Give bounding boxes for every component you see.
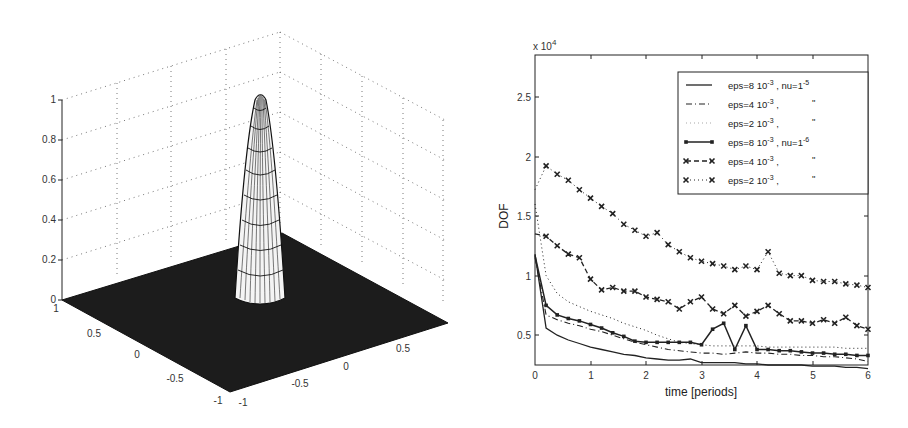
z-tick-label: 0.8 xyxy=(42,134,56,145)
x-tick-label: 0 xyxy=(343,361,349,372)
y-tick-label: 1.5 xyxy=(517,211,531,222)
y-tick-label: 2.5 xyxy=(517,92,531,103)
svg-text:eps=8 10-3 , nu=1-5: eps=8 10-3 , nu=1-5 xyxy=(728,79,809,91)
x-tick-label: -1 xyxy=(239,397,248,408)
x-tick-label: 6 xyxy=(865,370,871,381)
x-tick-label: 2 xyxy=(643,370,649,381)
series-line-4 xyxy=(535,255,870,357)
y-tick-label: 0 xyxy=(134,349,140,360)
series-layer xyxy=(535,163,871,368)
y-axis-label: DOF xyxy=(497,203,511,228)
z-tick-label: 1 xyxy=(50,94,56,105)
svg-text:eps=4 10-3 ,: eps=4 10-3 , xyxy=(728,155,779,167)
peak-surface xyxy=(235,95,285,304)
y-tick-label: 0.5 xyxy=(87,328,101,339)
x-tick-label: 4 xyxy=(754,370,760,381)
x-tick-label: -0.5 xyxy=(291,378,309,389)
y-tick-label: 1 xyxy=(525,271,531,282)
svg-text:eps=4 10-3 ,: eps=4 10-3 , xyxy=(728,98,779,110)
y-tick-label: 0.5 xyxy=(517,330,531,341)
legend-entry: eps=2 10-3 ," xyxy=(684,173,816,186)
y-tick-label: -0.5 xyxy=(166,373,184,384)
svg-text:": " xyxy=(812,154,815,165)
y-multiplier: x 104 xyxy=(533,38,557,52)
series-line-3 xyxy=(535,204,868,348)
legend-entry: eps=4 10-3 ," xyxy=(684,154,816,167)
legend-entry: eps=2 10-3 ," xyxy=(686,116,815,129)
svg-text:": " xyxy=(812,97,815,108)
plot-area xyxy=(535,55,868,365)
y-tick-label: 2 xyxy=(525,152,531,163)
x-tick-label: 0.5 xyxy=(396,343,410,354)
series-line-5 xyxy=(535,234,871,332)
x-tick-label: 5 xyxy=(810,370,816,381)
svg-text:eps=2 10-3 ,: eps=2 10-3 , xyxy=(728,117,779,129)
legend-entry: eps=8 10-3 , nu=1-6 xyxy=(684,136,809,148)
x-tick-label: 1 xyxy=(588,370,594,381)
x-ticks xyxy=(591,55,813,365)
z-tick-label: 0.4 xyxy=(42,214,56,225)
y-tick-label: -1 xyxy=(214,395,223,406)
svg-text:eps=2 10-3 ,: eps=2 10-3 , xyxy=(728,174,779,186)
z-ticks xyxy=(58,100,62,300)
series-line-1 xyxy=(535,254,868,369)
legend-entry: eps=4 10-3 ," xyxy=(686,97,815,110)
y-tick-label: 1 xyxy=(53,303,59,314)
legend-entry: eps=8 10-3 , nu=1-5 xyxy=(686,79,809,91)
x-tick-label: 0 xyxy=(532,370,538,381)
svg-text:eps=8 10-3 , nu=1-6: eps=8 10-3 , nu=1-6 xyxy=(728,136,809,148)
y-ticks xyxy=(535,97,868,335)
surface-plot: 1 0.8 0.6 0.4 0.2 0 1 xyxy=(0,0,460,428)
svg-text:": " xyxy=(812,173,815,184)
svg-text:": " xyxy=(812,116,815,127)
series-line-6 xyxy=(535,163,871,290)
series-line-2 xyxy=(535,258,868,362)
x-tick-label: 3 xyxy=(699,370,705,381)
z-tick-label: 0.6 xyxy=(42,174,56,185)
x-axis-label: time [periods] xyxy=(665,385,737,399)
z-tick-label: 0.2 xyxy=(42,254,56,265)
legend: eps=8 10-3 , nu=1-5eps=4 10-3 ,"eps=2 10… xyxy=(678,72,868,194)
